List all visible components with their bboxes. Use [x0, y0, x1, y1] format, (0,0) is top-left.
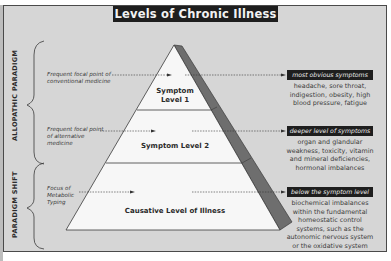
level-2-label: Symptom Level 2 — [120, 142, 230, 151]
arrowhead — [281, 191, 286, 194]
causative-level-label: Causative Level of Illness — [105, 207, 245, 216]
tag-level-1: most obvious symptoms — [287, 70, 373, 80]
focus-alternative: Frequent focal point of alternative medi… — [47, 126, 107, 147]
paradigm-shift-bracket — [27, 163, 44, 249]
level-1-label: Symptom Level 1 — [150, 87, 200, 104]
desc-causative: biochemical imbalances within the fundam… — [284, 199, 376, 251]
desc-level-1: headache, sore throat, indigestion, obes… — [284, 82, 376, 108]
paradigm-shift-label: PARADIGM SHIFT — [11, 176, 19, 238]
focus-metabolic: Focus of Metabolic Typing — [47, 185, 79, 206]
focus-conventional: Frequent focal point of conventional med… — [47, 71, 115, 85]
tag-causative: below the symptom level — [287, 187, 373, 197]
arrowhead — [281, 74, 286, 77]
allopathic-bracket — [27, 41, 44, 164]
tag-level-2: deeper level of symptoms — [287, 126, 373, 136]
arrowhead — [281, 130, 286, 133]
allopathic-paradigm-label: ALLOPATHIC PARADIGM — [11, 63, 19, 141]
desc-level-2: organ and glandular weakness, toxicity, … — [284, 138, 376, 172]
